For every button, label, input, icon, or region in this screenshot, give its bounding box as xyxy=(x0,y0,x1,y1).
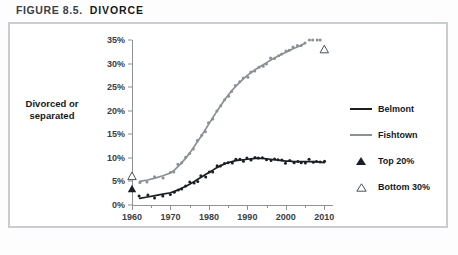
series-data-point xyxy=(308,158,311,161)
series-data-point xyxy=(269,56,272,59)
series-data-point xyxy=(176,163,179,166)
chart-legend: BelmontFishtownTop 20%Bottom 30% xyxy=(348,96,448,200)
series-data-point xyxy=(277,54,280,57)
x-tick-mark-major xyxy=(247,205,248,210)
series-data-point xyxy=(304,161,307,164)
series-data-point xyxy=(211,170,214,173)
legend-key-line xyxy=(348,108,374,111)
series-data-point xyxy=(319,160,322,163)
series-data-point xyxy=(262,65,265,68)
marker-triangle-open xyxy=(320,45,328,53)
series-data-point xyxy=(293,161,296,164)
series-data-point xyxy=(231,162,234,165)
series-data-point xyxy=(300,44,303,47)
y-tick-label: 35% xyxy=(107,35,125,45)
series-data-point xyxy=(153,175,156,178)
series-data-point xyxy=(153,196,156,199)
y-tick-label: 20% xyxy=(107,106,125,116)
legend-line-swatch xyxy=(350,108,372,111)
legend-key-line xyxy=(348,134,374,137)
series-data-point xyxy=(312,161,315,164)
series-data-point xyxy=(273,158,276,161)
series-data-point xyxy=(219,104,222,107)
x-tick-mark-minor xyxy=(190,205,191,208)
series-data-point xyxy=(304,41,307,44)
legend-item: Top 20% xyxy=(348,148,448,174)
series-data-point xyxy=(291,46,294,49)
x-tick-mark-minor xyxy=(305,205,306,208)
plot-area: 0%5%10%15%20%25%30%35% 19601970198019902… xyxy=(132,40,332,205)
series-data-point xyxy=(219,164,222,167)
x-tick-label: 1990 xyxy=(237,212,257,222)
triangle-open-icon xyxy=(356,183,367,192)
x-tick-mark-major xyxy=(170,205,171,210)
series-data-point xyxy=(285,49,288,52)
series-data-point xyxy=(311,39,314,42)
y-tick-label: 10% xyxy=(107,153,125,163)
x-tick-label: 2000 xyxy=(276,212,296,222)
x-tick-mark-major xyxy=(209,205,210,210)
series-data-point xyxy=(242,160,245,163)
series-data-point xyxy=(265,62,268,65)
series-data-point xyxy=(234,158,237,161)
y-tick-label: 0% xyxy=(112,200,125,210)
series-data-point xyxy=(146,193,149,196)
series-data-point xyxy=(246,76,249,79)
series-data-point xyxy=(169,193,172,196)
x-tick-label: 1970 xyxy=(160,212,180,222)
legend-line-swatch xyxy=(350,134,372,137)
series-data-point xyxy=(180,161,183,164)
legend-item-label: Fishtown xyxy=(378,130,418,140)
series-data-point xyxy=(234,84,237,87)
series-data-point xyxy=(184,185,187,188)
x-tick-label: 1980 xyxy=(199,212,219,222)
series-data-point xyxy=(184,156,187,159)
series-data-point xyxy=(169,171,172,174)
legend-item-label: Belmont xyxy=(378,104,414,114)
x-tick-label: 1960 xyxy=(122,212,142,222)
x-axis-line xyxy=(132,205,333,206)
legend-item-label: Bottom 30% xyxy=(378,182,430,192)
series-data-point xyxy=(138,181,141,184)
series-data-point xyxy=(253,69,256,72)
y-tick-label: 30% xyxy=(107,59,125,69)
series-data-point xyxy=(242,77,245,80)
series-data-point xyxy=(323,160,326,163)
series-data-point xyxy=(207,121,210,124)
series-data-point xyxy=(138,195,141,198)
series-data-point xyxy=(211,117,214,120)
x-tick-mark-major xyxy=(132,205,133,210)
series-data-point xyxy=(162,176,165,179)
x-tick-mark-minor xyxy=(267,205,268,208)
series-data-point xyxy=(173,191,176,194)
series-data-point xyxy=(199,174,202,177)
series-data-point xyxy=(200,134,203,137)
y-tick-label: 5% xyxy=(112,176,125,186)
series-data-point xyxy=(204,175,207,178)
series-data-point xyxy=(280,159,283,162)
series-data-point xyxy=(245,157,248,160)
series-data-point xyxy=(238,158,241,161)
series-data-point xyxy=(270,159,273,162)
y-axis-title-line2: separated xyxy=(12,110,92,122)
y-axis-title: Divorced or separated xyxy=(12,98,92,122)
series-data-point xyxy=(193,181,196,184)
legend-key-top20 xyxy=(348,157,374,165)
series-data-point xyxy=(265,158,268,161)
series-data-point xyxy=(161,194,164,197)
series-data-point xyxy=(223,98,226,101)
series-data-point xyxy=(180,187,183,190)
series-data-point xyxy=(250,158,253,161)
series-data-point xyxy=(192,147,195,150)
series-data-point xyxy=(288,159,291,162)
series-data-point xyxy=(249,70,252,73)
series-data-point xyxy=(284,162,287,165)
y-axis-title-line1: Divorced or xyxy=(12,98,92,110)
figure-name: DIVORCE xyxy=(90,4,144,16)
series-data-point xyxy=(223,162,226,165)
x-tick-mark-major xyxy=(324,205,325,210)
legend-key-bottom30 xyxy=(348,183,374,192)
figure-number: FIGURE 8.5. xyxy=(16,4,83,16)
series-data-point xyxy=(230,90,233,93)
series-data-point xyxy=(308,39,311,42)
